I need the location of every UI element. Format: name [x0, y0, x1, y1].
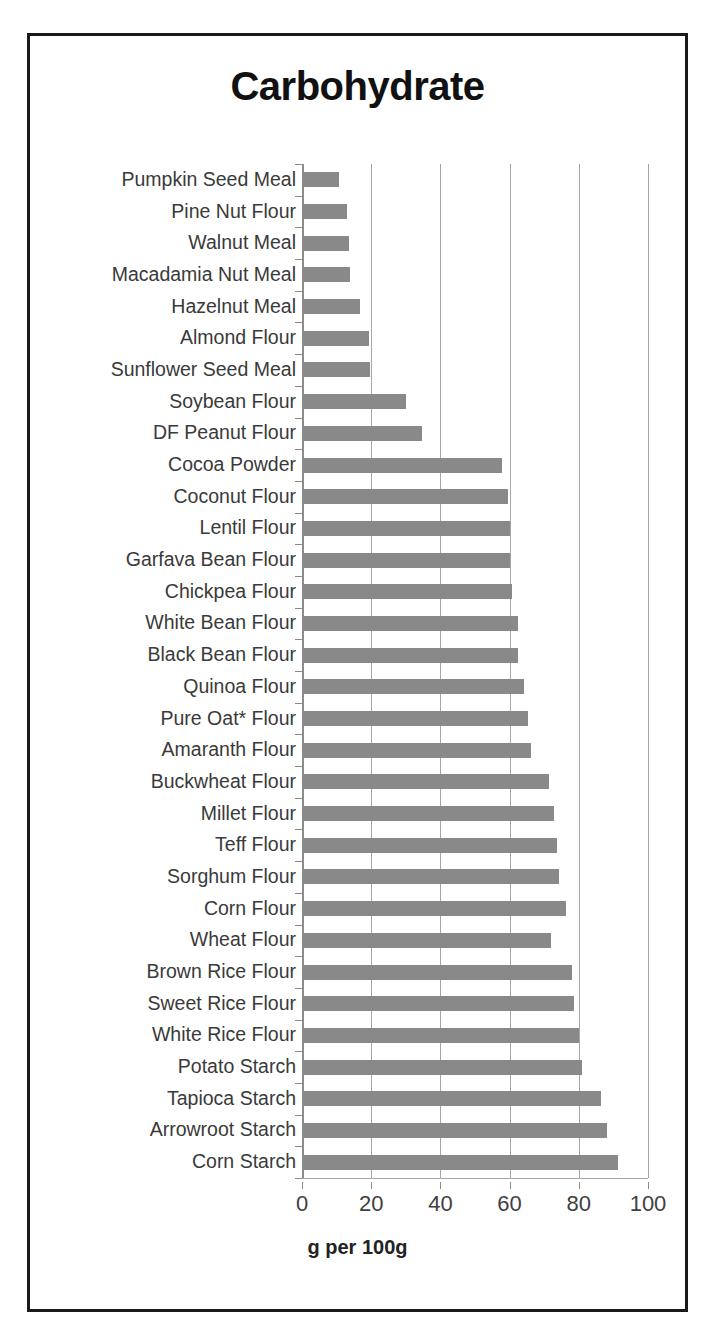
category-tick — [295, 1178, 302, 1179]
bar — [302, 584, 512, 599]
axis-baseline — [302, 1178, 648, 1179]
category-tick — [295, 418, 302, 419]
category-tick — [295, 576, 302, 577]
category-tick — [295, 608, 302, 609]
bar — [302, 1123, 607, 1138]
bar — [302, 331, 369, 346]
value-tick-label: 40 — [410, 1191, 470, 1217]
bar — [302, 996, 574, 1011]
category-tick — [295, 861, 302, 862]
bar — [302, 1091, 601, 1106]
category-label: Almond Flour — [30, 328, 296, 348]
value-tick-100 — [648, 1182, 649, 1189]
category-tick — [295, 1020, 302, 1021]
value-tick-0 — [302, 1182, 303, 1189]
category-label: Lentil Flour — [30, 518, 296, 538]
bar — [302, 648, 518, 663]
bar — [302, 267, 350, 282]
bar — [302, 838, 557, 853]
category-tick — [295, 829, 302, 830]
value-tick-20 — [371, 1182, 372, 1189]
category-label: Cocoa Powder — [30, 455, 296, 475]
category-label: Millet Flour — [30, 804, 296, 824]
bar — [302, 204, 347, 219]
category-tick — [295, 354, 302, 355]
category-label: DF Peanut Flour — [30, 423, 296, 443]
category-label: Corn Starch — [30, 1152, 296, 1172]
bar — [302, 172, 339, 187]
category-tick — [295, 481, 302, 482]
bar — [302, 1028, 579, 1043]
category-label: Black Bean Flour — [30, 645, 296, 665]
gridline-40 — [440, 164, 441, 1178]
value-tick-label: 80 — [549, 1191, 609, 1217]
category-tick — [295, 259, 302, 260]
bar — [302, 1155, 618, 1170]
bar — [302, 394, 406, 409]
category-label: Pumpkin Seed Meal — [30, 170, 296, 190]
chart-title: Carbohydrate — [30, 64, 685, 109]
category-tick — [295, 227, 302, 228]
value-tick-40 — [440, 1182, 441, 1189]
gridline-100 — [648, 164, 649, 1178]
category-label: Walnut Meal — [30, 233, 296, 253]
value-tick-label: 0 — [272, 1191, 332, 1217]
category-label: Wheat Flour — [30, 930, 296, 950]
category-tick — [295, 956, 302, 957]
category-tick — [295, 1115, 302, 1116]
bar — [302, 711, 528, 726]
bar — [302, 521, 510, 536]
gridline-20 — [371, 164, 372, 1178]
category-label: Chickpea Flour — [30, 582, 296, 602]
bar — [302, 869, 559, 884]
category-label: Corn Flour — [30, 899, 296, 919]
category-label: Sunflower Seed Meal — [30, 360, 296, 380]
category-tick — [295, 734, 302, 735]
value-axis-title: g per 100g — [30, 1236, 685, 1259]
category-tick — [295, 513, 302, 514]
category-tick — [295, 386, 302, 387]
category-label: Amaranth Flour — [30, 740, 296, 760]
category-axis-labels: Pumpkin Seed MealPine Nut FlourWalnut Me… — [30, 164, 296, 1182]
category-label: Pure Oat* Flour — [30, 709, 296, 729]
category-label: Soybean Flour — [30, 392, 296, 412]
bar — [302, 553, 510, 568]
bar — [302, 426, 422, 441]
category-label: Garfava Bean Flour — [30, 550, 296, 570]
bar — [302, 236, 349, 251]
value-tick-80 — [579, 1182, 580, 1189]
value-axis-ticks: 020406080100 — [302, 1182, 648, 1222]
gridline-80 — [579, 164, 580, 1178]
category-tick — [295, 893, 302, 894]
category-tick — [295, 449, 302, 450]
category-label: Brown Rice Flour — [30, 962, 296, 982]
category-label: Hazelnut Meal — [30, 297, 296, 317]
bar — [302, 933, 551, 948]
category-label: White Rice Flour — [30, 1025, 296, 1045]
category-tick — [295, 1146, 302, 1147]
bar — [302, 774, 549, 789]
category-tick — [295, 322, 302, 323]
category-tick — [295, 703, 302, 704]
value-tick-label: 20 — [341, 1191, 401, 1217]
category-label: Arrowroot Starch — [30, 1120, 296, 1140]
category-tick — [295, 766, 302, 767]
bar — [302, 679, 524, 694]
chart-frame: Carbohydrate Pumpkin Seed MealPine Nut F… — [27, 33, 688, 1312]
bar — [302, 299, 360, 314]
bar — [302, 616, 518, 631]
category-tick — [295, 925, 302, 926]
category-label: Sorghum Flour — [30, 867, 296, 887]
plot-region: Pumpkin Seed MealPine Nut FlourWalnut Me… — [30, 164, 685, 1182]
category-label: Potato Starch — [30, 1057, 296, 1077]
bars-plot-area — [302, 164, 648, 1178]
category-label: Teff Flour — [30, 835, 296, 855]
value-tick-label: 60 — [480, 1191, 540, 1217]
category-label: Macadamia Nut Meal — [30, 265, 296, 285]
category-tick — [295, 671, 302, 672]
category-tick — [295, 544, 302, 545]
bar — [302, 806, 554, 821]
category-label: Tapioca Starch — [30, 1089, 296, 1109]
category-label: Quinoa Flour — [30, 677, 296, 697]
category-tick — [295, 291, 302, 292]
